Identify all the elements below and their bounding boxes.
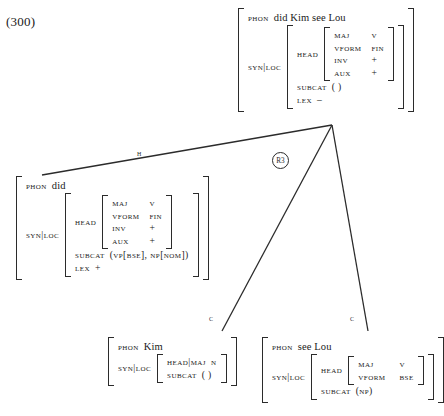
row-head-maj: HEAD|MAJ N bbox=[167, 356, 216, 369]
feature-phon-value: did bbox=[52, 179, 66, 193]
avm-root-node: PHON did Kim see Lou SYN|LOC HEAD MAJ V bbox=[238, 8, 414, 112]
feature-vform-label: VFORM bbox=[358, 371, 385, 384]
feature-phon-label: PHON bbox=[118, 341, 139, 354]
edge-label-complement-left: C bbox=[209, 313, 213, 323]
feature-head-label: HEAD bbox=[75, 216, 96, 229]
row-phon: PHON Kim bbox=[118, 340, 227, 354]
bracket-left bbox=[238, 8, 244, 112]
feature-aux-label: AUX bbox=[112, 235, 129, 248]
bracket-left bbox=[348, 356, 354, 385]
feature-subcat-label: SUBCAT bbox=[321, 385, 351, 398]
feature-lex-value: + bbox=[95, 262, 101, 275]
feature-vform-label: VFORM bbox=[112, 210, 139, 223]
bracket-left bbox=[311, 354, 317, 400]
bracket-left bbox=[157, 354, 163, 383]
feature-maj-label: MAJ bbox=[112, 197, 127, 210]
branch-complement-right bbox=[332, 125, 368, 331]
row-lex: LEX + bbox=[75, 262, 189, 275]
feature-maj-label: MAJ bbox=[358, 358, 385, 371]
bracket-right bbox=[203, 176, 209, 280]
edge-label-complement-right: C bbox=[350, 313, 354, 323]
feature-syn-loc-label: SYN|LOC bbox=[272, 371, 305, 384]
feature-phon-value: did Kim see Lou bbox=[274, 11, 346, 25]
bracket-right bbox=[408, 8, 414, 112]
feature-phon-label: PHON bbox=[26, 180, 47, 193]
bracket-right bbox=[193, 193, 199, 277]
bracket-right bbox=[231, 337, 237, 386]
bracket-right bbox=[428, 354, 434, 400]
avm-head-value: MAJ V VFORM BSE bbox=[348, 356, 423, 385]
feature-aux-label: AUX bbox=[334, 67, 351, 80]
feature-syn-loc-label: SYN|LOC bbox=[118, 362, 151, 375]
branch-head bbox=[42, 125, 332, 175]
row-syn-loc: SYN|LOC HEAD MAJ V VFORM FIN bbox=[26, 193, 199, 277]
bracket-left bbox=[16, 176, 22, 280]
head-feature-table: MAJ V VFORM FIN INV + AUX + bbox=[333, 27, 385, 82]
feature-maj-label: MAJ bbox=[334, 29, 349, 42]
edge-label-head: H bbox=[137, 148, 142, 158]
feature-vform-label: VFORM bbox=[334, 42, 361, 55]
avm-head-daughter-did: PHON did SYN|LOC HEAD MAJ V VFORM bbox=[16, 176, 209, 280]
bracket-right bbox=[398, 25, 404, 109]
feature-vform-value: BSE bbox=[399, 371, 413, 384]
avm-syn-loc-value: HEAD MAJ V VFORM BSE bbox=[311, 354, 434, 400]
example-number: (300) bbox=[6, 14, 35, 30]
feature-maj-value: V bbox=[149, 197, 155, 210]
feature-lex-label: LEX bbox=[297, 94, 312, 107]
feature-head-maj-value: N bbox=[211, 356, 217, 369]
feature-aux-value: + bbox=[371, 67, 377, 80]
avm-syn-loc-value: HEAD|MAJ N SUBCAT ( ) bbox=[157, 354, 226, 383]
feature-head-maj-label: HEAD|MAJ bbox=[167, 356, 206, 369]
feature-phon-value: see Lou bbox=[298, 340, 332, 354]
bracket-right bbox=[388, 27, 394, 82]
feature-maj-value: V bbox=[371, 29, 377, 42]
feature-syn-loc-label: SYN|LOC bbox=[26, 229, 59, 242]
bracket-left bbox=[65, 193, 71, 277]
bracket-left bbox=[287, 25, 293, 109]
bracket-right bbox=[418, 356, 424, 385]
bracket-left bbox=[262, 337, 268, 403]
feature-phon-label: PHON bbox=[272, 341, 293, 354]
row-subcat: SUBCAT (NP) bbox=[321, 385, 424, 398]
bracket-right bbox=[221, 354, 227, 383]
bracket-right bbox=[166, 195, 172, 250]
row-syn-loc: SYN|LOC HEAD MAJ V VFORM FIN bbox=[248, 25, 404, 109]
row-head: HEAD MAJ V VFORM FIN INV + AUX bbox=[75, 195, 189, 250]
bracket-left bbox=[108, 337, 114, 386]
row-syn-loc: SYN|LOC HEAD MAJ V VFORM BSE bbox=[272, 354, 434, 400]
feature-subcat-value: ( ) bbox=[202, 369, 212, 382]
row-lex: LEX – bbox=[297, 94, 394, 107]
feature-phon-value: Kim bbox=[144, 340, 163, 354]
feature-inv-label: INV bbox=[112, 222, 126, 235]
feature-inv-value: + bbox=[149, 222, 155, 235]
feature-head-label: HEAD bbox=[297, 48, 318, 61]
row-subcat: SUBCAT ( ) bbox=[297, 81, 394, 94]
bracket-right bbox=[438, 337, 444, 403]
row-subcat: SUBCAT ( ) bbox=[167, 369, 216, 382]
feature-aux-value: + bbox=[149, 235, 155, 248]
feature-head-label: HEAD bbox=[321, 364, 342, 377]
row-phon: PHON see Lou bbox=[272, 340, 434, 354]
row-subcat: SUBCAT (VP[BSE], NP[NOM]) bbox=[75, 249, 189, 262]
feature-inv-label: INV bbox=[334, 54, 348, 67]
feature-subcat-label: SUBCAT bbox=[297, 81, 327, 94]
avm-complement-see-lou: PHON see Lou SYN|LOC HEAD MAJ V VFO bbox=[262, 337, 444, 403]
feature-maj-value: V bbox=[399, 358, 413, 371]
feature-phon-label: PHON bbox=[248, 12, 269, 25]
feature-subcat-label: SUBCAT bbox=[75, 249, 105, 262]
feature-subcat-value: ( ) bbox=[332, 81, 342, 94]
feature-subcat-value: (VP[BSE], NP[NOM]) bbox=[110, 249, 189, 262]
avm-syn-loc-value: HEAD MAJ V VFORM FIN INV + AUX bbox=[287, 25, 404, 109]
feature-vform-value: FIN bbox=[371, 42, 384, 55]
avm-complement-kim: PHON Kim SYN|LOC HEAD|MAJ N SUBCAT ( ) bbox=[108, 337, 237, 386]
feature-vform-value: FIN bbox=[149, 210, 162, 223]
avm-head-value: MAJ V VFORM FIN INV + AUX + bbox=[324, 27, 394, 82]
row-syn-loc: SYN|LOC HEAD|MAJ N SUBCAT ( ) bbox=[118, 354, 227, 383]
bracket-left bbox=[324, 27, 330, 82]
feature-syn-loc-label: SYN|LOC bbox=[248, 61, 281, 74]
bracket-left bbox=[102, 195, 108, 250]
rule-badge-r3: R3 bbox=[272, 152, 289, 169]
feature-lex-value: – bbox=[317, 94, 322, 107]
avm-head-value: MAJ V VFORM FIN INV + AUX + bbox=[102, 195, 172, 250]
head-feature-table: MAJ V VFORM BSE bbox=[357, 356, 414, 385]
